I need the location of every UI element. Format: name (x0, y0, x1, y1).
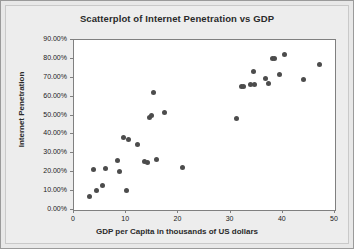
x-tick-mark (230, 210, 231, 213)
data-point (317, 62, 322, 67)
data-point (124, 188, 129, 193)
y-tick-label: 50.00% (21, 111, 67, 118)
x-tick-mark (282, 210, 283, 213)
data-point (103, 166, 108, 171)
x-tick-label: 30 (226, 215, 234, 222)
y-tick-mark (70, 115, 73, 116)
chart-title: Scatterplot of Internet Penetration vs G… (1, 13, 353, 24)
y-tick-label: 70.00% (21, 73, 67, 80)
y-tick-label: 80.00% (21, 54, 67, 61)
x-tick-label: 0 (71, 215, 75, 222)
data-point (135, 142, 140, 147)
data-point (149, 113, 154, 118)
data-point (251, 69, 256, 74)
x-tick-mark (177, 210, 178, 213)
x-tick-label: 50 (330, 215, 338, 222)
x-tick-label: 20 (173, 215, 181, 222)
y-tick-mark (70, 96, 73, 97)
y-tick-label: 20.00% (21, 167, 67, 174)
y-tick-label: 60.00% (21, 92, 67, 99)
y-tick-mark (70, 152, 73, 153)
y-tick-label: 40.00% (21, 129, 67, 136)
data-point (277, 72, 282, 77)
data-point (94, 188, 99, 193)
data-point (121, 135, 126, 140)
y-tick-mark (70, 58, 73, 59)
data-point (91, 167, 96, 172)
y-tick-label: 90.00% (21, 35, 67, 42)
y-tick-label: 10.00% (21, 186, 67, 193)
y-tick-label: 30.00% (21, 148, 67, 155)
data-point (154, 157, 159, 162)
x-tick-label: 40 (278, 215, 286, 222)
x-tick-mark (73, 210, 74, 213)
data-point (234, 116, 239, 121)
x-axis-title: GDP per Capita in thousands of US dollar… (1, 227, 353, 236)
y-tick-label: 0.00% (21, 205, 67, 212)
x-tick-mark (334, 210, 335, 213)
x-tick-label: 10 (121, 215, 129, 222)
data-point (151, 90, 156, 95)
x-tick-mark (125, 210, 126, 213)
data-point (162, 110, 167, 115)
data-point (180, 165, 185, 170)
data-point (266, 81, 271, 86)
y-tick-mark (70, 171, 73, 172)
y-tick-mark (70, 133, 73, 134)
data-point (272, 56, 277, 61)
data-point (126, 137, 131, 142)
data-point (117, 169, 122, 174)
data-point (145, 160, 150, 165)
data-point (301, 77, 306, 82)
plot-area (73, 39, 336, 211)
data-point (241, 84, 246, 89)
data-point (115, 158, 120, 163)
data-point (100, 183, 105, 188)
data-point (87, 194, 92, 199)
y-tick-mark (70, 77, 73, 78)
chart-figure: Scatterplot of Internet Penetration vs G… (0, 0, 354, 249)
data-point (282, 52, 287, 57)
y-tick-mark (70, 39, 73, 40)
y-tick-mark (70, 190, 73, 191)
data-point (252, 82, 257, 87)
